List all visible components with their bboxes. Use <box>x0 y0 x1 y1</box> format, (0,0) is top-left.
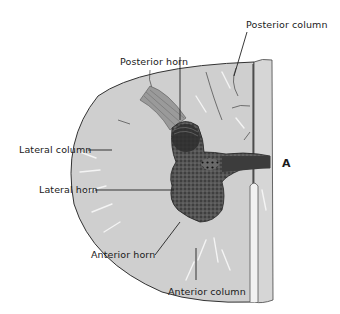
label-lateral-column: Lateral column <box>19 144 91 155</box>
label-posterior-horn: Posterior horn <box>120 56 188 67</box>
panel-letter: A <box>282 157 291 170</box>
label-posterior-column: Posterior column <box>246 19 328 30</box>
label-anterior-column: Anterior column <box>168 286 246 297</box>
label-lateral-horn: Lateral horn <box>39 184 98 195</box>
label-anterior-horn: Anterior horn <box>91 249 155 260</box>
anterior-median-fissure <box>250 183 258 302</box>
